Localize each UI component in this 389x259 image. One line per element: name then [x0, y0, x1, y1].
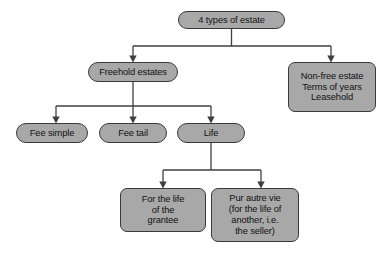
node-life: Life	[177, 123, 245, 143]
node-root-4-types-of-estate: 4 types of estate	[178, 11, 285, 29]
node-nonfree-line-3: Leasehold	[292, 92, 372, 103]
node-pur-autre-vie-line-2: (for the life of	[215, 204, 295, 215]
node-fee-tail: Fee tail	[99, 123, 167, 143]
node-fee-simple: Fee simple	[16, 123, 88, 143]
node-pur-autre-vie-line-3: another, i.e.	[215, 215, 295, 226]
node-life-line-1: Life	[181, 128, 241, 139]
node-grantee-line-3: grantee	[124, 215, 202, 226]
node-root-line-1: 4 types of estate	[182, 15, 281, 26]
node-fee-simple-line-1: Fee simple	[20, 128, 84, 139]
node-non-free-estate: Non-free estate Terms of years Leasehold	[288, 62, 376, 112]
node-for-the-life-of-the-grantee: For the life of the grantee	[120, 188, 206, 232]
node-freehold-line-1: Freehold estates	[92, 67, 174, 78]
node-grantee-line-1: For the life	[124, 194, 202, 205]
node-nonfree-line-1: Non-free estate	[292, 71, 372, 82]
node-nonfree-line-2: Terms of years	[292, 82, 372, 93]
node-pur-autre-vie-line-4: the seller)	[215, 226, 295, 237]
node-grantee-line-2: of the	[124, 205, 202, 216]
node-pur-autre-vie-line-1: Pur autre vie	[215, 193, 295, 204]
node-pur-autre-vie: Pur autre vie (for the life of another, …	[211, 188, 299, 242]
node-fee-tail-line-1: Fee tail	[103, 128, 163, 139]
node-freehold-estates: Freehold estates	[88, 62, 178, 82]
estate-types-diagram: 4 types of estate Freehold estates Non-f…	[0, 0, 389, 259]
